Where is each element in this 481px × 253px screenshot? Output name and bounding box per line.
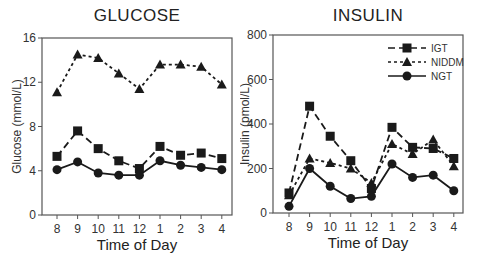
circle-marker-icon bbox=[197, 163, 206, 172]
y-axis-label: Insulin (pmol/L) bbox=[240, 83, 252, 165]
square-marker-icon bbox=[388, 123, 397, 132]
x-tick-label: 8 bbox=[286, 220, 293, 234]
x-tick-label: 1 bbox=[389, 220, 396, 234]
circle-marker-icon bbox=[305, 164, 314, 173]
y-tick-label: 0 bbox=[260, 206, 267, 220]
x-tick-label: 3 bbox=[430, 220, 437, 234]
y-tick-label: 4 bbox=[29, 164, 36, 178]
x-tick-label: 4 bbox=[450, 220, 457, 234]
circle-marker-icon bbox=[156, 156, 165, 165]
x-axis-label: Time of Day bbox=[328, 234, 409, 251]
circle-marker-icon bbox=[135, 171, 144, 180]
square-marker-icon bbox=[156, 142, 165, 151]
x-tick-label: 8 bbox=[54, 222, 61, 236]
circle-marker-icon bbox=[388, 160, 397, 169]
circle-marker-icon bbox=[176, 161, 185, 170]
circle-marker-icon bbox=[449, 186, 458, 195]
y-tick-label: 8 bbox=[29, 120, 36, 134]
legend-label: NGT bbox=[431, 71, 452, 82]
x-tick-label: 4 bbox=[218, 222, 225, 236]
legend-label: IGT bbox=[431, 43, 448, 54]
triangle-marker-icon bbox=[325, 158, 335, 167]
legend-label: NIDDM bbox=[431, 57, 464, 68]
circle-marker-icon bbox=[73, 157, 82, 166]
x-tick-label: 2 bbox=[177, 222, 184, 236]
legend: IGTNIDDMNGT bbox=[388, 43, 464, 82]
y-tick-label: 0 bbox=[29, 208, 36, 222]
insulin-plot: 0200400600800891011121234Time of DayInsu… bbox=[240, 0, 481, 253]
square-marker-icon bbox=[326, 132, 335, 141]
circle-marker-icon bbox=[53, 165, 62, 174]
square-marker-icon bbox=[305, 102, 314, 111]
x-tick-label: 2 bbox=[409, 220, 416, 234]
x-tick-label: 12 bbox=[365, 220, 379, 234]
x-tick-label: 10 bbox=[324, 220, 338, 234]
square-marker-icon bbox=[53, 152, 62, 161]
circle-marker-icon bbox=[94, 168, 103, 177]
square-marker-icon bbox=[176, 151, 185, 160]
triangle-marker-icon bbox=[73, 50, 83, 59]
x-tick-label: 3 bbox=[198, 222, 205, 236]
triangle-marker-icon bbox=[305, 153, 315, 162]
x-tick-label: 9 bbox=[74, 222, 81, 236]
square-marker-icon bbox=[73, 126, 82, 135]
x-axis-label: Time of Day bbox=[97, 236, 178, 253]
y-axis-label: Glucose (mmol/L) bbox=[10, 79, 24, 174]
circle-marker-icon bbox=[114, 171, 123, 180]
square-marker-icon bbox=[114, 156, 123, 165]
circle-marker-icon bbox=[429, 171, 438, 180]
triangle-marker-icon bbox=[428, 135, 438, 144]
square-marker-icon bbox=[217, 154, 226, 163]
x-tick-label: 12 bbox=[133, 222, 147, 236]
square-marker-icon bbox=[197, 149, 206, 158]
square-marker-icon bbox=[94, 144, 103, 153]
x-tick-label: 11 bbox=[113, 222, 126, 236]
circle-marker-icon bbox=[367, 192, 376, 201]
triangle-marker-icon bbox=[52, 87, 62, 96]
circle-marker-icon bbox=[285, 202, 294, 211]
glucose-chart: GLUCOSE 0481216891011121234Time of DayGl… bbox=[0, 0, 240, 253]
circle-marker-icon bbox=[326, 182, 335, 191]
triangle-marker-icon bbox=[196, 62, 206, 71]
legend-circle-icon bbox=[403, 72, 412, 81]
legend-square-icon bbox=[403, 44, 412, 53]
circle-marker-icon bbox=[346, 194, 355, 203]
plot-frame bbox=[42, 38, 232, 215]
legend-triangle-icon bbox=[402, 57, 412, 66]
x-tick-label: 10 bbox=[92, 222, 106, 236]
circle-marker-icon bbox=[217, 165, 226, 174]
square-marker-icon bbox=[429, 144, 438, 153]
y-tick-label: 12 bbox=[23, 75, 37, 89]
x-tick-label: 1 bbox=[157, 222, 164, 236]
x-tick-label: 9 bbox=[306, 220, 313, 234]
y-tick-label: 16 bbox=[23, 31, 37, 45]
insulin-chart: INSULIN 0200400600800891011121234Time of… bbox=[240, 0, 481, 253]
circle-marker-icon bbox=[408, 173, 417, 182]
y-tick-label: 800 bbox=[247, 28, 267, 42]
glucose-plot: 0481216891011121234Time of DayGlucose (m… bbox=[0, 0, 240, 253]
x-tick-label: 11 bbox=[345, 220, 358, 234]
